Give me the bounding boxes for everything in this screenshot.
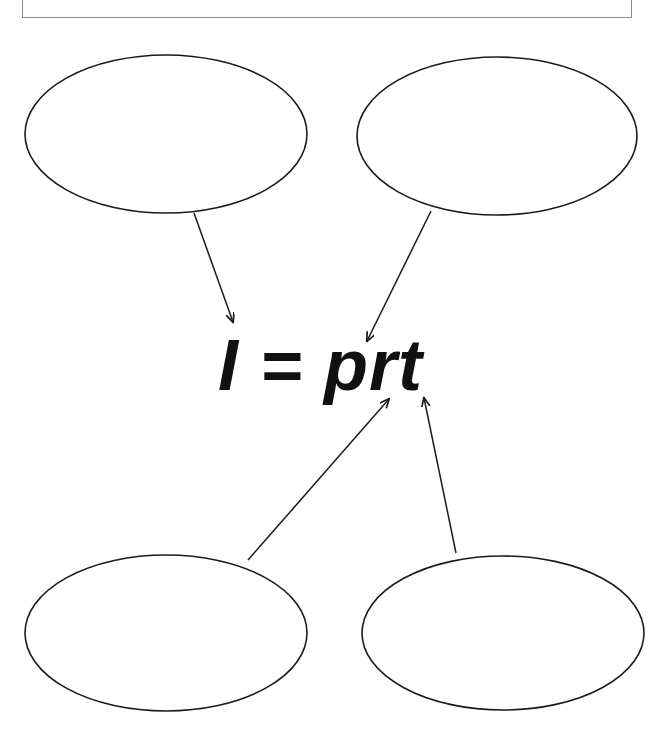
arrow-bottom-left-to-center [248,399,389,560]
diagram-canvas: I = prt [0,0,657,736]
arrow-top-right-to-center [367,211,431,341]
ellipse-bottom-right[interactable] [362,556,644,710]
arrow-bottom-right-to-center [424,398,456,553]
center-formula: I = prt [218,326,448,404]
ellipse-bottom-left[interactable] [25,555,307,711]
arrow-top-left-to-center [194,213,233,322]
ellipse-top-right[interactable] [357,57,637,215]
ellipse-top-left[interactable] [25,55,307,213]
